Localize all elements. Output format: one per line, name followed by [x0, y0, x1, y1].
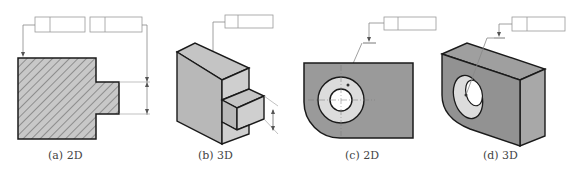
panel-c-2d-drawing: [304, 17, 436, 138]
arrow-icon: [145, 82, 149, 87]
hatched-section-profile: [18, 58, 119, 139]
feature-control-frame-4: [384, 17, 436, 30]
feature-control-frame-2: [90, 17, 142, 32]
arrow-icon: [21, 52, 25, 57]
feature-control-frame-5: [512, 17, 565, 31]
leader-line: [142, 25, 147, 115]
caption-c: (c) 2D: [345, 149, 379, 162]
caption-b: (b) 3D: [198, 149, 233, 162]
caption-d: (d) 3D: [483, 149, 518, 162]
leader-line: [23, 25, 35, 55]
arrow-icon: [145, 77, 149, 82]
caption-a: (a) 2D: [48, 149, 82, 162]
feature-point: [465, 94, 468, 97]
arrow-icon: [497, 32, 501, 37]
arrow-icon: [367, 37, 371, 42]
panel-d-3d-drawing: [442, 17, 565, 146]
feature-control-frame-1: [35, 17, 85, 32]
arrow-icon: [271, 109, 275, 114]
feature-control-frame-3: [225, 15, 273, 28]
panel-b-3d-drawing: [177, 15, 278, 144]
panel-a-2d-drawing: [18, 17, 150, 139]
arrow-icon: [145, 109, 149, 114]
feature-point: [347, 84, 350, 87]
